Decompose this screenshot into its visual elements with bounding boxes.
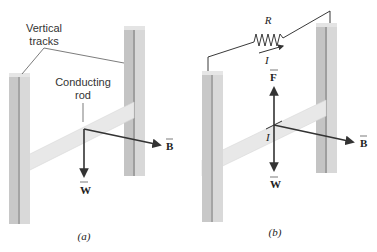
force-label-b: F (270, 71, 277, 83)
right-track-b (316, 23, 337, 173)
field-label-a: B (166, 140, 174, 152)
right-track-a (124, 26, 145, 176)
tracks-label-line2: tracks (29, 35, 59, 47)
weight-label-b: W (270, 178, 281, 190)
field-label-b: B (360, 137, 368, 149)
panel-b: R I F I W B (b) (202, 11, 368, 239)
circuit-wire (208, 42, 254, 73)
panel-a: Vertical tracks Conducting rod W B (a) (9, 22, 174, 243)
tracks-leader-left (22, 48, 44, 74)
tracks-leader-right (44, 48, 124, 63)
current-label: I (264, 54, 270, 66)
conducting-rod-a (14, 102, 134, 178)
resistor-symbol (254, 34, 283, 46)
left-track-b (202, 71, 223, 222)
caption-b: (b) (269, 226, 282, 239)
diagram-canvas: Vertical tracks Conducting rod W B (a) R… (0, 0, 377, 252)
current-arrow (259, 46, 283, 53)
left-track-a (9, 73, 30, 224)
resistor-label: R (264, 14, 272, 26)
caption-a: (a) (78, 230, 91, 243)
weight-label-a: W (80, 184, 91, 196)
tracks-label-line1: Vertical (26, 22, 62, 34)
rod-label-line1: Conducting (55, 76, 111, 88)
rod-label-line2: rod (75, 89, 91, 101)
